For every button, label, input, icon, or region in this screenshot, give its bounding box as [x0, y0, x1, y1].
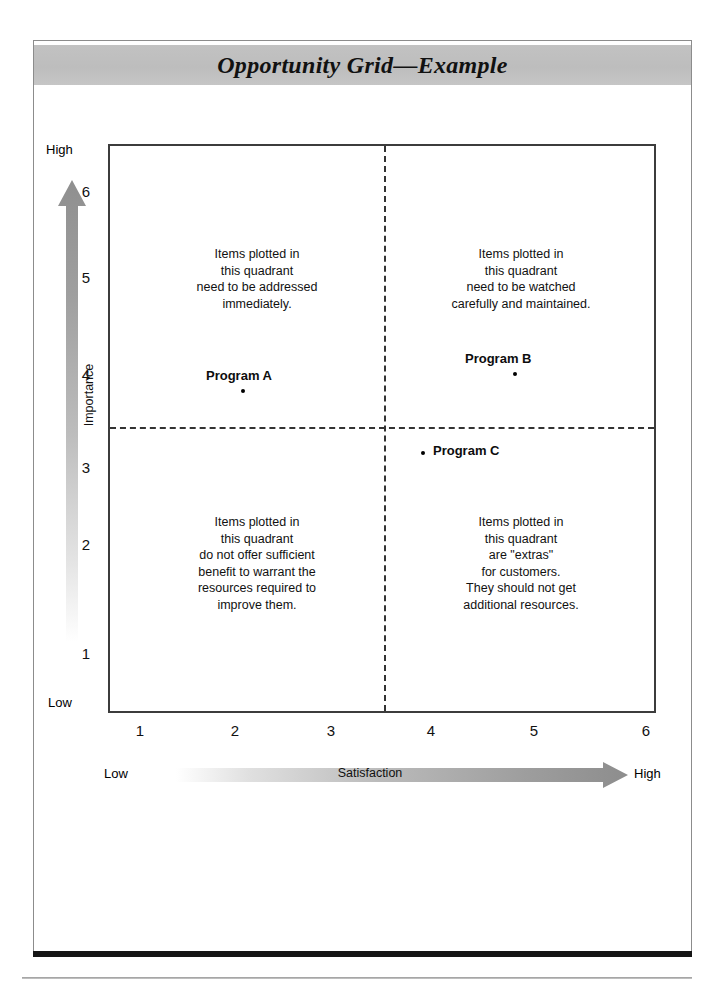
footer-divider [22, 977, 692, 979]
x-axis-tick-2: 2 [220, 722, 250, 739]
page-title: Opportunity Grid—Example [217, 52, 508, 79]
data-point-label-program-c: Program C [433, 443, 499, 458]
x-axis-tick-1: 1 [125, 722, 155, 739]
quadrant-note-top-left: Items plotted in this quadrant need to b… [146, 246, 368, 312]
y-axis-tick-1: 1 [68, 645, 90, 662]
x-axis-tick-6: 6 [631, 722, 661, 739]
page-bottom-rule [33, 951, 692, 957]
x-axis-title: Satisfaction [280, 766, 460, 780]
x-axis-high-label: High [634, 766, 661, 781]
quadrant-divider-horizontal [110, 427, 654, 429]
quadrant-note-bottom-right: Items plotted in this quadrant are "extr… [410, 514, 632, 613]
x-axis-tick-5: 5 [519, 722, 549, 739]
opportunity-grid-plot: Items plotted in this quadrant need to b… [108, 144, 656, 713]
y-axis-high-label: High [46, 142, 73, 157]
quadrant-note-bottom-left: Items plotted in this quadrant do not of… [146, 514, 368, 613]
y-axis-title: Importance [82, 345, 96, 445]
data-point-marker-program-c [421, 451, 425, 455]
y-axis-low-label: Low [48, 695, 72, 710]
x-axis-tick-3: 3 [316, 722, 346, 739]
title-band: Opportunity Grid—Example [34, 45, 691, 85]
data-point-marker-program-b [513, 372, 517, 376]
x-axis-tick-4: 4 [416, 722, 446, 739]
x-axis-low-label: Low [104, 766, 128, 781]
data-point-marker-program-a [241, 389, 245, 393]
importance-arrow-icon: Importance [58, 180, 86, 642]
quadrant-note-top-right: Items plotted in this quadrant need to b… [410, 246, 632, 312]
data-point-label-program-a: Program A [206, 368, 272, 383]
data-point-label-program-b: Program B [465, 351, 531, 366]
